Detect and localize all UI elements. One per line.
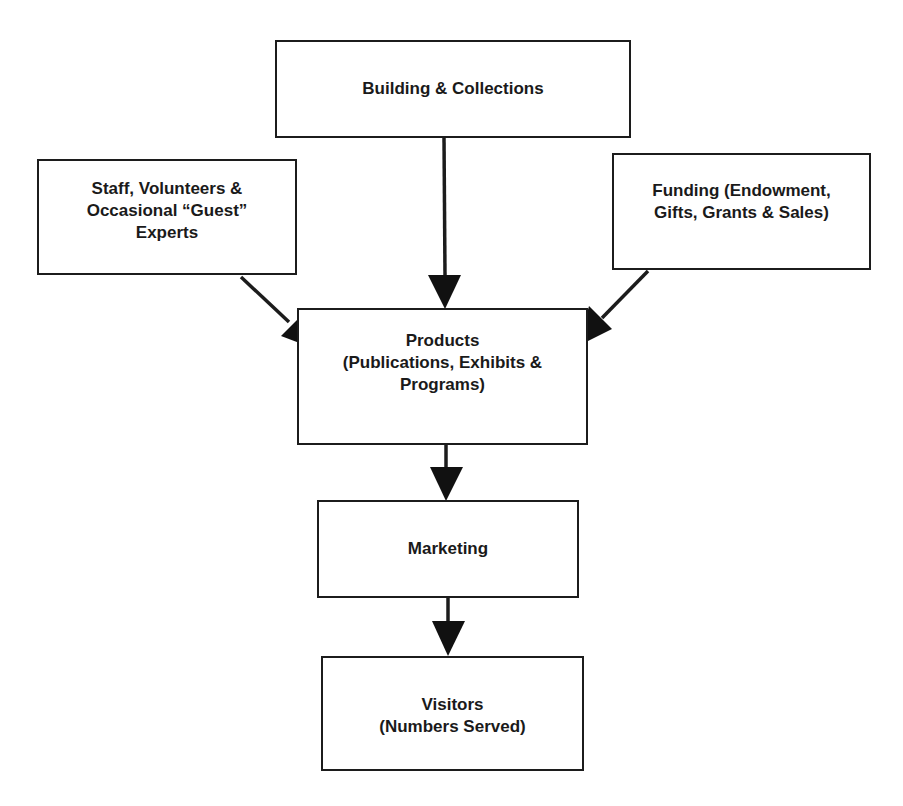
arrow-marketing-to-visitors — [432, 598, 465, 656]
node-label: Products (Publications, Exhibits & Progr… — [343, 330, 542, 396]
node-label: Staff, Volunteers & Occasional “Guest” E… — [87, 178, 248, 244]
node-label: Visitors (Numbers Served) — [379, 694, 525, 738]
node-staff-volunteers: Staff, Volunteers & Occasional “Guest” E… — [37, 159, 297, 275]
arrow-products-to-marketing — [430, 445, 463, 501]
node-label: Funding (Endowment, Gifts, Grants & Sale… — [652, 180, 830, 224]
node-label: Marketing — [408, 538, 488, 560]
flowchart-canvas: Building & Collections Staff, Volunteers… — [0, 0, 903, 806]
arrow-building-to-products — [428, 138, 461, 309]
node-marketing: Marketing — [317, 500, 579, 598]
arrow-funding-to-products — [578, 271, 648, 346]
node-visitors: Visitors (Numbers Served) — [321, 656, 584, 771]
node-funding: Funding (Endowment, Gifts, Grants & Sale… — [612, 153, 871, 270]
node-building-collections: Building & Collections — [275, 40, 631, 138]
node-label: Building & Collections — [362, 78, 543, 100]
node-products: Products (Publications, Exhibits & Progr… — [297, 308, 588, 445]
